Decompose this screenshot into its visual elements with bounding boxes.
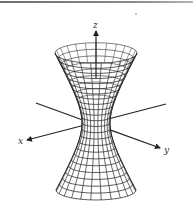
ring-front [77, 100, 115, 105]
ring-front [70, 82, 123, 89]
ring-front [74, 153, 118, 159]
ring-front [80, 135, 111, 139]
ring-front [82, 117, 111, 121]
ring-front [68, 166, 123, 173]
ring-front [79, 141, 114, 145]
meridian-back [112, 44, 116, 63]
meridian-back [104, 43, 106, 63]
ring-front [81, 111, 112, 115]
ring-front [82, 129, 111, 133]
z-axis-label: z [92, 20, 98, 30]
ring-front [76, 147, 115, 152]
meridian-back [67, 46, 73, 65]
axis-back-segments [36, 103, 166, 120]
x-axis-label: x [18, 136, 23, 146]
hyperboloid-diagram: x y z [0, 0, 193, 213]
x-axis-back [110, 104, 166, 119]
ring-front [79, 106, 113, 110]
meridian-back [76, 44, 80, 63]
ring-front [82, 123, 110, 127]
meridian-back [85, 43, 87, 63]
ring-front [59, 184, 133, 193]
x-axis-front [27, 126, 82, 140]
y-axis-label: y [163, 145, 170, 155]
ring-front [71, 160, 121, 166]
ring-front [56, 190, 136, 200]
meridian-back [119, 46, 125, 65]
y-axis-back [36, 103, 82, 120]
axis-front-segments [27, 31, 160, 148]
y-axis-front [110, 130, 160, 148]
